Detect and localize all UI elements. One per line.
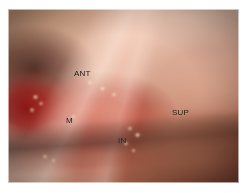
annotation-label-in: IN (118, 137, 126, 145)
specular-highlight (39, 102, 43, 105)
specular-highlight (52, 159, 55, 162)
lower-right-tissue-region (8, 9, 239, 183)
specular-highlight (88, 81, 92, 84)
specular-highlight (112, 93, 116, 96)
pale-skin-upper-region (8, 9, 239, 183)
specular-highlight (100, 87, 105, 90)
shadowed-recess-region (8, 9, 239, 183)
deep-blood-region (8, 9, 239, 183)
photo-softening-blur (8, 9, 239, 183)
specular-highlight (43, 155, 47, 158)
photo-vignette (8, 9, 239, 183)
mucosal-ridge-highlight (8, 9, 239, 183)
shadow-band-region (8, 9, 239, 183)
figure-root: ANT M SUP IN (0, 0, 247, 193)
photo-base-wash (8, 9, 239, 183)
raw-tissue-core-region (8, 9, 239, 183)
mucosal-ridge-highlight-2 (8, 9, 239, 183)
annotation-label-sup: SUP (172, 109, 189, 117)
specular-highlight (33, 95, 38, 99)
skin-right-region (8, 9, 239, 183)
specular-highlight (128, 127, 132, 130)
surgical-photograph: ANT M SUP IN (8, 9, 239, 183)
specular-highlight (135, 133, 140, 137)
specular-highlight (30, 108, 34, 112)
specular-highlight (132, 149, 135, 152)
annotation-label-m: M (66, 117, 73, 125)
annotation-label-ant: ANT (74, 70, 91, 78)
raw-tissue-lower-region (8, 9, 239, 183)
